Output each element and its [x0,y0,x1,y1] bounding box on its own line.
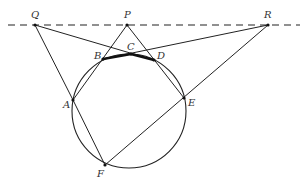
label-r: R [263,9,272,20]
label-c: C [127,41,135,52]
segment-pa [73,25,127,100]
point-dots [33,23,269,166]
label-e: E [187,97,196,108]
circle [72,54,186,168]
segment-qa [35,25,73,100]
label-d: D [156,50,165,61]
label-p: P [123,9,131,20]
segment-af [73,100,105,165]
label-f: F [96,168,105,179]
geometry-diagram: Q P R B C D A E F [0,0,305,185]
label-q: Q [31,9,39,20]
segment-pe [127,25,184,98]
label-b: B [93,50,101,61]
label-a: A [62,99,70,110]
